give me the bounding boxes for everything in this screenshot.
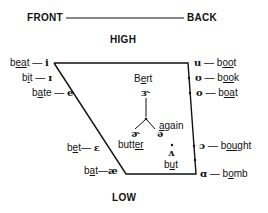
dash: —: [205, 72, 215, 83]
word-part: t: [175, 159, 178, 170]
dash: —: [210, 168, 220, 179]
front-label: FRONT: [27, 13, 63, 23]
dot-bomb-upper: [194, 159, 196, 161]
central-word-bert: Bert: [134, 74, 152, 84]
ipa-symbol-again: ə: [157, 129, 163, 139]
but-dot: [171, 144, 173, 146]
front-vowel-bate: bate — e: [32, 88, 73, 98]
word-part: t: [234, 57, 237, 68]
dash: —: [35, 72, 45, 83]
word-underlined: ou: [226, 140, 237, 151]
low-label: LOW: [112, 193, 136, 203]
word-part: ght: [237, 140, 251, 151]
dash: —: [81, 142, 91, 153]
back-vowel-bought: ɔ — bought: [199, 141, 251, 151]
dot-bought: [193, 145, 195, 147]
back-label: BACK: [187, 13, 217, 23]
ipa-symbol-butter: ɚ: [131, 129, 140, 139]
word-underlined: er: [135, 139, 144, 150]
dash: —: [204, 57, 214, 68]
ipa-symbol: ɑ: [200, 168, 207, 179]
front-vowel-bit: bit — ɪ: [22, 73, 52, 83]
vowel-trapezoid: [54, 63, 196, 174]
word-part: te: [43, 87, 51, 98]
back-vowel-boat: o — boat: [196, 88, 238, 98]
central-word-but: but: [164, 160, 178, 170]
word-underlined: oo: [223, 72, 234, 83]
word-part: mb: [234, 168, 248, 179]
front-vowel-beat: beat — i: [10, 58, 49, 68]
word-part: t: [27, 57, 30, 68]
word-part: butt: [118, 139, 135, 150]
front-vowel-bet: bet— ɛ: [67, 143, 100, 153]
dash: —: [54, 87, 64, 98]
central-branch-right: [147, 120, 155, 129]
dash: —: [208, 140, 218, 151]
ipa-symbol-bert: ɝ: [141, 88, 150, 98]
ipa-symbol: ɛ: [94, 142, 100, 153]
high-label: HIGH: [110, 35, 136, 45]
ipa-symbol: ʊ: [195, 72, 202, 83]
dash: —: [98, 165, 108, 176]
word-part: k: [234, 72, 239, 83]
dot-boat: [189, 92, 191, 94]
word-part: t: [235, 87, 238, 98]
front-vowel-bat: bat—æ: [84, 166, 118, 176]
dash: —: [205, 87, 215, 98]
central-node-dot: [145, 118, 148, 121]
vowel-trapezoid-lines: [0, 0, 268, 213]
word-part: gain: [165, 120, 184, 131]
word-part: B: [134, 73, 141, 84]
central-word-butter: butter: [118, 140, 144, 150]
back-vowel-bomb: ɑ — bomb: [200, 169, 248, 179]
word-underlined: oa: [224, 87, 235, 98]
ipa-symbol: o: [196, 87, 203, 98]
dash: —: [32, 57, 42, 68]
word-underlined: oo: [222, 57, 233, 68]
ipa-symbol: u: [194, 57, 201, 68]
word-underlined: ea: [16, 57, 27, 68]
back-vowel-book: ʊ — book: [195, 73, 239, 83]
ipa-symbol: e: [67, 87, 73, 98]
word-part: t: [30, 72, 33, 83]
word-part: rt: [146, 73, 152, 84]
ipa-symbol: ɪ: [48, 72, 52, 83]
ipa-symbol-but: ʌ: [168, 148, 174, 158]
dot-book: [188, 77, 190, 79]
back-vowel-boot: u — boot: [194, 58, 236, 68]
ipa-symbol: æ: [108, 165, 118, 176]
ipa-symbol: i: [45, 57, 49, 68]
ipa-symbol: ɔ: [199, 140, 205, 151]
